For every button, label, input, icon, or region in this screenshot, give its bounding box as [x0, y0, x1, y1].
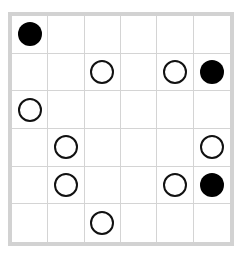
game-board: [8, 12, 234, 246]
board-cell-r0-c1[interactable]: [48, 16, 84, 54]
board-cell-r4-c2[interactable]: [85, 167, 121, 205]
board-cell-r4-c1[interactable]: [48, 167, 84, 205]
board-cell-r3-c5[interactable]: [194, 129, 230, 167]
white-circle-icon: [18, 98, 42, 122]
board-cell-r5-c3[interactable]: [121, 204, 157, 242]
board-cell-r2-c1[interactable]: [48, 91, 84, 129]
white-circle-icon: [90, 60, 114, 84]
board-cell-r2-c0[interactable]: [12, 91, 48, 129]
white-circle-icon: [163, 60, 187, 84]
board-cell-r5-c5[interactable]: [194, 204, 230, 242]
board-cell-r3-c4[interactable]: [157, 129, 193, 167]
board-cell-r5-c0[interactable]: [12, 204, 48, 242]
board-cell-r5-c1[interactable]: [48, 204, 84, 242]
board-cell-r1-c1[interactable]: [48, 54, 84, 92]
white-circle-icon: [200, 135, 224, 159]
board-cell-r5-c4[interactable]: [157, 204, 193, 242]
board-cell-r3-c2[interactable]: [85, 129, 121, 167]
board-cell-r0-c0[interactable]: [12, 16, 48, 54]
white-circle-icon: [90, 211, 114, 235]
board-cell-r1-c4[interactable]: [157, 54, 193, 92]
black-circle-icon: [200, 60, 224, 84]
board-cell-r0-c2[interactable]: [85, 16, 121, 54]
board-cell-r3-c0[interactable]: [12, 129, 48, 167]
board-cell-r3-c3[interactable]: [121, 129, 157, 167]
board-cell-r1-c0[interactable]: [12, 54, 48, 92]
board-cell-r2-c4[interactable]: [157, 91, 193, 129]
board-cell-r1-c3[interactable]: [121, 54, 157, 92]
white-circle-icon: [54, 173, 78, 197]
board-cell-r4-c4[interactable]: [157, 167, 193, 205]
board-cell-r1-c5[interactable]: [194, 54, 230, 92]
board-cell-r4-c5[interactable]: [194, 167, 230, 205]
board-cell-r1-c2[interactable]: [85, 54, 121, 92]
board-cell-r0-c4[interactable]: [157, 16, 193, 54]
black-circle-icon: [18, 22, 42, 46]
board-cell-r2-c2[interactable]: [85, 91, 121, 129]
board-cell-r2-c3[interactable]: [121, 91, 157, 129]
black-circle-icon: [200, 173, 224, 197]
white-circle-icon: [54, 135, 78, 159]
board-cell-r4-c3[interactable]: [121, 167, 157, 205]
board-cell-r2-c5[interactable]: [194, 91, 230, 129]
board-cell-r0-c3[interactable]: [121, 16, 157, 54]
white-circle-icon: [163, 173, 187, 197]
board-cell-r3-c1[interactable]: [48, 129, 84, 167]
board-cell-r4-c0[interactable]: [12, 167, 48, 205]
board-cell-r5-c2[interactable]: [85, 204, 121, 242]
board-cell-r0-c5[interactable]: [194, 16, 230, 54]
